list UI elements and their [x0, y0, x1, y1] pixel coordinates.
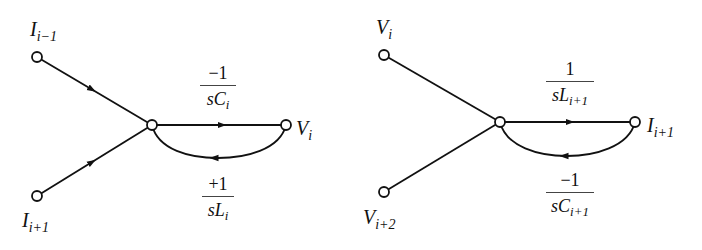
node-bottom — [379, 187, 389, 197]
feedback-gain: +1 sLi — [196, 175, 240, 222]
signal-flow-diagrams: Ii−1 Ii+1 Vi −1 sCi +1 sLi Vi Vi+2 Ii+1 … — [0, 0, 702, 250]
forward-gain: −1 sCi — [196, 64, 240, 111]
node-top — [32, 52, 42, 62]
node-bottom — [32, 191, 42, 201]
node-label-top: Ii−1 — [30, 19, 57, 44]
node-center — [147, 120, 157, 130]
node-label-output: Ii+1 — [647, 115, 674, 140]
node-output — [281, 120, 291, 130]
node-label-bottom: Vi+2 — [363, 207, 396, 232]
edge-feedback — [152, 125, 286, 158]
edge-bottom-to-center — [384, 122, 500, 192]
node-label-output: Vi — [296, 118, 312, 143]
forward-gain: 1 sLi+1 — [542, 60, 598, 107]
edge-bottom-to-center — [37, 125, 152, 196]
edge-top-to-center — [37, 57, 152, 125]
right-graph — [379, 50, 640, 197]
node-label-top: Vi — [376, 17, 392, 42]
node-top — [379, 50, 389, 60]
feedback-gain: −1 sCi+1 — [542, 171, 598, 218]
node-center — [495, 117, 505, 127]
edge-feedback — [500, 122, 635, 156]
left-graph — [32, 52, 291, 201]
node-label-bottom: Ii+1 — [22, 210, 49, 235]
edge-top-to-center — [384, 55, 500, 122]
node-output — [630, 117, 640, 127]
